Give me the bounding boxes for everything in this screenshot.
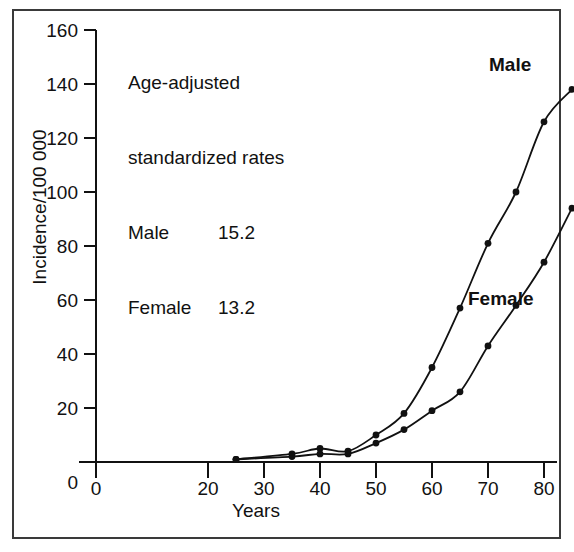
x-axis-label: Years xyxy=(96,500,416,522)
data-point-female-65 xyxy=(457,388,464,395)
ytick-label-160: 160 xyxy=(22,21,78,40)
ytick-label-20: 20 xyxy=(22,399,78,418)
ytick-label-0: 0 xyxy=(22,473,78,492)
xtick-label-0: 0 xyxy=(74,479,118,498)
annotation-standardized-rates: Age-adjusted standardized rates Male15.2… xyxy=(128,20,284,370)
data-point-male-50 xyxy=(373,432,380,439)
annotation-female-name: Female xyxy=(128,295,218,320)
annotation-female-value: 13.2 xyxy=(218,297,255,318)
data-point-female-60 xyxy=(429,407,436,414)
data-point-female-50 xyxy=(373,440,380,447)
xtick-label-60: 60 xyxy=(410,479,454,498)
data-point-female-55 xyxy=(401,426,408,433)
annotation-female-row: Female13.2 xyxy=(128,295,284,320)
data-point-female-40 xyxy=(317,451,324,458)
data-point-female-25 xyxy=(233,456,240,463)
y-axis-ticks xyxy=(84,30,96,408)
xtick-label-20: 20 xyxy=(186,479,230,498)
data-point-female-35 xyxy=(289,453,296,460)
xtick-label-70: 70 xyxy=(466,479,510,498)
y-axis-label: Incidence/100 000 xyxy=(29,107,51,307)
annotation-male-value: 15.2 xyxy=(218,222,255,243)
series-curves xyxy=(236,89,572,459)
curve-male xyxy=(236,89,572,459)
curve-female xyxy=(236,208,572,459)
data-point-male-65 xyxy=(457,305,464,312)
data-point-female-70 xyxy=(485,343,492,350)
xtick-label-80: 80 xyxy=(522,479,566,498)
data-point-male-70 xyxy=(485,240,492,247)
annotation-line-1: Age-adjusted xyxy=(128,70,284,95)
ytick-label-40: 40 xyxy=(22,345,78,364)
ytick-label-140: 140 xyxy=(22,75,78,94)
series-label-female: Female xyxy=(468,288,533,310)
xtick-label-40: 40 xyxy=(298,479,342,498)
plot-canvas xyxy=(0,0,574,552)
figure-chart-incidence-by-age: 160 140 120 100 80 60 40 20 0 0 20 30 40… xyxy=(0,0,574,552)
annotation-male-name: Male xyxy=(128,220,218,245)
data-point-female-85 xyxy=(569,205,574,212)
data-point-female-45 xyxy=(345,451,352,458)
data-point-male-75 xyxy=(513,189,520,196)
xtick-label-50: 50 xyxy=(354,479,398,498)
data-point-male-60 xyxy=(429,364,436,371)
data-point-male-80 xyxy=(541,118,548,125)
annotation-male-row: Male15.2 xyxy=(128,220,284,245)
annotation-line-2: standardized rates xyxy=(128,145,284,170)
data-point-male-55 xyxy=(401,410,408,417)
x-axis-ticks xyxy=(96,462,544,478)
series-label-male: Male xyxy=(489,54,531,76)
data-point-female-80 xyxy=(541,259,548,266)
xtick-label-30: 30 xyxy=(242,479,286,498)
